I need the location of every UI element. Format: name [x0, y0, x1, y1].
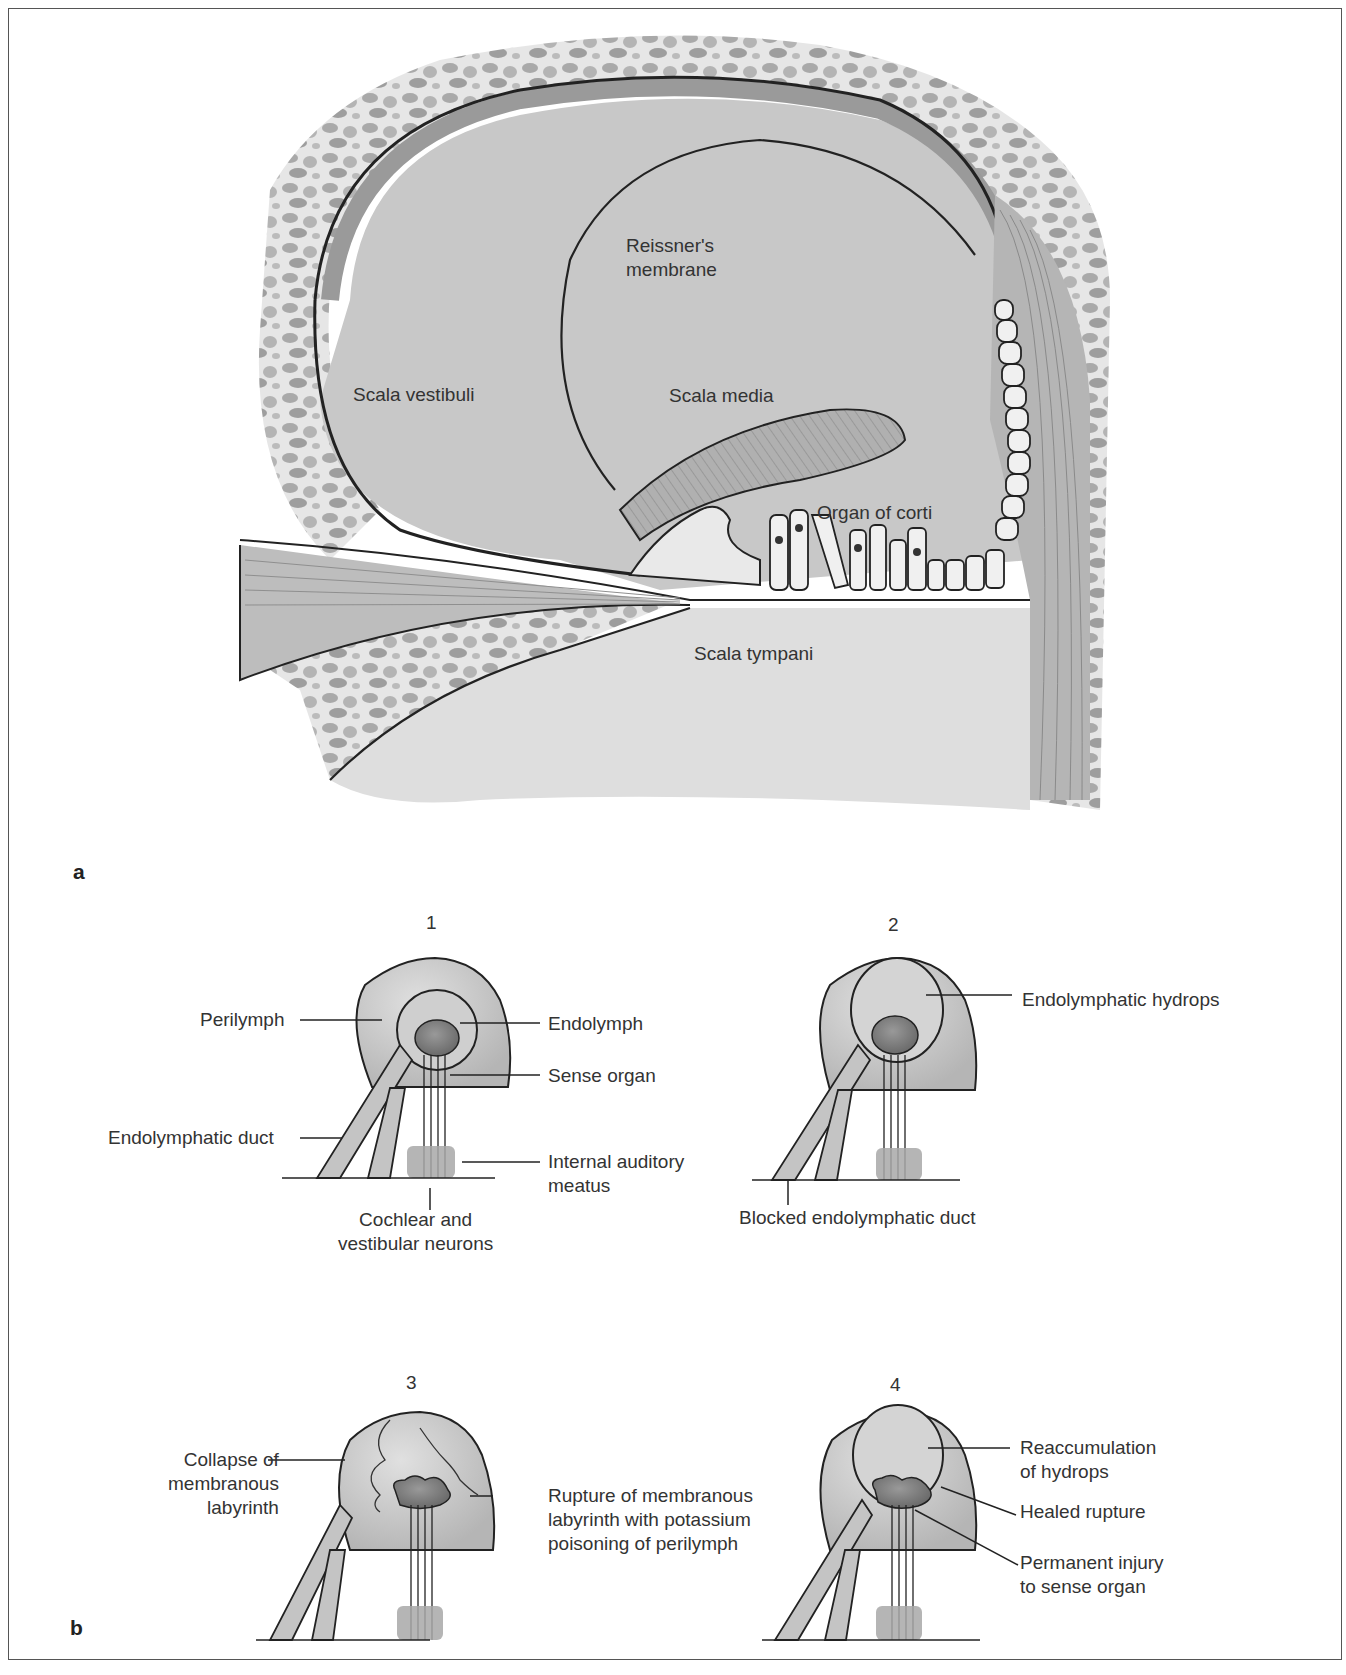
- label-sense-organ: Sense organ: [548, 1064, 656, 1088]
- label-endolymphatic-duct: Endolymphatic duct: [108, 1126, 274, 1150]
- label-perilymph: Perilymph: [200, 1008, 284, 1032]
- hydrops-stages-illustration: [0, 0, 1346, 1675]
- label-internal-auditory-meatus: Internal auditory meatus: [548, 1150, 684, 1198]
- label-cochlear-vestibular-neurons: Cochlear and vestibular neurons: [338, 1208, 493, 1256]
- label-blocked-endolymphatic-duct: Blocked endolymphatic duct: [739, 1206, 976, 1230]
- stage-3-diagram: [256, 1412, 494, 1640]
- label-endolymph: Endolymph: [548, 1012, 643, 1036]
- panel-letter-b: b: [70, 1616, 83, 1640]
- stage-number-2: 2: [888, 914, 899, 936]
- stage-number-4: 4: [890, 1374, 901, 1396]
- label-permanent-injury: Permanent injury to sense organ: [1020, 1551, 1164, 1599]
- stage-2-diagram: [752, 958, 1012, 1205]
- label-healed-rupture: Healed rupture: [1020, 1500, 1146, 1524]
- label-endolymphatic-hydrops: Endolymphatic hydrops: [1022, 988, 1220, 1012]
- stage-number-3: 3: [406, 1372, 417, 1394]
- stage-4-diagram: [762, 1405, 1018, 1640]
- label-reaccumulation-of-hydrops: Reaccumulation of hydrops: [1020, 1436, 1156, 1484]
- stage-number-1: 1: [426, 912, 437, 934]
- label-collapse-membranous-labyrinth: Collapse of membranous labyrinth: [168, 1448, 279, 1520]
- stage-1-diagram: [282, 958, 540, 1210]
- label-rupture-potassium-poisoning: Rupture of membranous labyrinth with pot…: [548, 1484, 753, 1556]
